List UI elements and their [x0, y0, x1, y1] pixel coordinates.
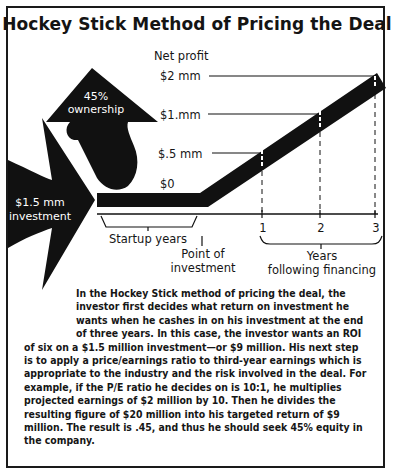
caption-text: In the Hockey Stick method of pricing th…	[24, 287, 376, 448]
y-label-2mm: $2 mm	[160, 69, 201, 83]
years-bracket	[260, 236, 382, 244]
caption-line: In the Hockey Stick method of pricing th…	[24, 287, 376, 300]
caption-line: appropriate to the industry and the risk…	[24, 367, 376, 380]
x-tick-label-3: 3	[372, 221, 379, 235]
caption-line: is to apply a price/earnings ratio to th…	[24, 354, 376, 367]
y-label-05mm: $.5 mm	[158, 147, 202, 161]
caption-line: wants when he cashes in on his investmen…	[24, 314, 376, 327]
caption-line: investor first decides what return on in…	[24, 300, 376, 313]
investment-arrow-line1: $1.5 mm	[15, 196, 64, 209]
ownership-arrow-line2: ownership	[68, 103, 125, 116]
years-following-line1: Years	[306, 249, 337, 263]
startup-bracket	[101, 216, 197, 227]
x-tick-label-1: 1	[259, 221, 266, 235]
x-tick-label-2: 2	[317, 221, 324, 235]
caption-line: of three years. In this case, the invest…	[24, 327, 376, 340]
hockey-stick-bar	[97, 73, 386, 207]
caption-line: resulting figure of $20 million into his…	[24, 408, 376, 421]
point-of-investment-line1: Point of	[181, 247, 225, 261]
years-following-line2: following financing	[268, 263, 376, 277]
caption-line: of six on a $1.5 million investment—or $…	[24, 341, 376, 354]
startup-label: Startup years	[109, 232, 187, 246]
investment-arrow-line2: investment	[9, 210, 72, 223]
y-label-0: $0	[160, 177, 175, 191]
caption-line: projected earnings of $2 million by 10. …	[24, 394, 376, 407]
caption-line: the company.	[24, 434, 376, 447]
y-axis-title: Net profit	[154, 49, 209, 63]
ownership-arrow-line1: 45%	[84, 90, 108, 103]
caption-line: million. The result is .45, and thus he …	[24, 421, 376, 434]
y-label-1mm: $1.mm	[160, 108, 201, 122]
point-of-investment-line2: investment	[171, 261, 236, 275]
caption-line: example, if the P/E ratio he decides on …	[24, 381, 376, 394]
